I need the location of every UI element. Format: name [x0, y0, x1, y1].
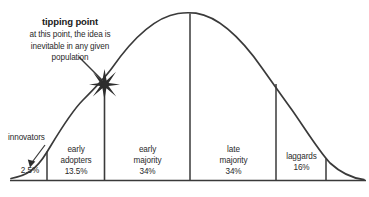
innovators-callout-label: innovators: [8, 133, 45, 142]
diffusion-of-innovation-diagram: tipping point at this point, the idea is…: [0, 0, 369, 197]
segment-label-laggards: laggards 16%: [277, 152, 326, 174]
innovators-leader-line: [32, 145, 46, 163]
segment-name-late-majority-line2: majority: [191, 156, 276, 167]
segment-label-early-adopters: early adopters 13.5%: [48, 145, 104, 178]
segment-percent-late-majority: 34%: [191, 167, 276, 178]
tipping-point-line-3: population: [8, 52, 132, 64]
star-sparkle-icon: [89, 69, 120, 100]
segment-name-late-majority-line1: late: [191, 145, 276, 156]
segment-name-early-majority-line1: early: [105, 145, 190, 156]
segment-label-late-majority: late majority 34%: [191, 145, 276, 178]
segment-percent-laggards: 16%: [277, 163, 326, 174]
segment-name-laggards: laggards: [277, 152, 326, 163]
tipping-point-body: at this point, the idea is inevitable in…: [8, 29, 132, 64]
tipping-point-line-2: inevitable in any given: [8, 41, 132, 53]
segment-percent-early-adopters: 13.5%: [48, 167, 104, 178]
segment-percent-early-majority: 34%: [105, 167, 190, 178]
segment-name-early-adopters-line2: adopters: [48, 156, 104, 167]
tipping-point-title: tipping point: [8, 16, 132, 27]
segment-label-innovators: 2.5%: [12, 166, 48, 177]
segment-label-early-majority: early majority 34%: [105, 145, 190, 178]
segment-name-early-majority-line2: majority: [105, 156, 190, 167]
tipping-point-annotation: tipping point at this point, the idea is…: [8, 16, 132, 64]
segment-percent-innovators: 2.5%: [12, 166, 48, 177]
tipping-point-line-1: at this point, the idea is: [8, 29, 132, 41]
segment-name-early-adopters-line1: early: [48, 145, 104, 156]
